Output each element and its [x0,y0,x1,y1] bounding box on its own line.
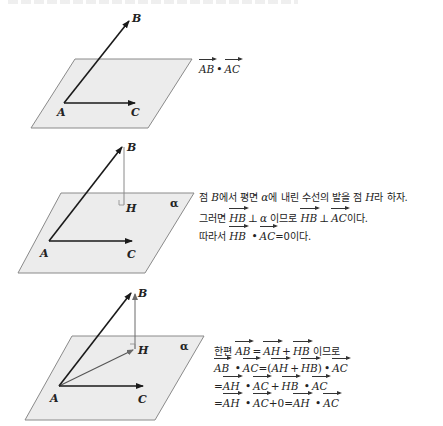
text: 에서 평면 [219,192,261,203]
text: 에 내린 수선의 발을 점 [268,192,365,203]
vector-ah: AH [293,390,310,413]
point-b: B [211,191,219,203]
vector-ac: AC [332,355,348,378]
vector-ac: AC [225,56,241,79]
vector-ac: AC [323,390,339,413]
text: 라 하자. [374,192,407,203]
text: =0이다. [275,231,311,242]
text: 점 [199,192,211,203]
vector-ac: AC [253,390,269,413]
vector-ac: AC [260,223,276,246]
label-b: B [137,287,147,300]
explanation-2-line-3: 따라서 HB •AC=0이다. [199,223,311,246]
label-alpha: α [180,340,189,353]
figure-1: B A C [31,12,192,128]
dot-operator: • [313,397,323,409]
vector-ab: AB [199,56,214,79]
label-b: B [131,12,141,25]
vector-ac: AC [331,205,347,228]
plus-zero-equals: +0= [269,397,293,409]
label-c: C [138,393,147,406]
label-h: H [137,344,149,357]
plane [25,336,204,420]
label-h: H [125,202,137,215]
equals: = [214,397,223,409]
vector-ah: AH [223,390,240,413]
perp-symbol: ⊥ [317,212,331,224]
text: 이다. [347,213,368,224]
vector-hb: HB [229,223,246,246]
caption-dot-product: AB•AC [199,56,240,79]
label-c: C [131,106,140,119]
label-b: B [126,141,136,154]
label-a: A [56,106,66,119]
plane [18,193,194,273]
dot-operator: • [249,230,259,242]
label-a: A [49,392,59,405]
label-alpha: α [170,197,179,210]
explanation-3-line-4: =AH •AC+0=AH •AC [214,390,339,413]
plane [31,59,192,128]
label-a: A [39,247,49,260]
dot-operator: • [243,397,253,409]
label-c: C [127,248,136,261]
figure-2: B H α A C [18,141,194,273]
dot-operator: • [214,63,224,75]
text: 따라서 [199,231,229,242]
figure-3: B H α A C [25,287,204,420]
